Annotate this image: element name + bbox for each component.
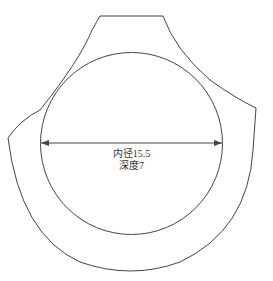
diameter-dimension-arrow bbox=[41, 140, 222, 146]
depth-label: 深度7 bbox=[0, 160, 263, 172]
inner-diameter-label: 内径15.5 bbox=[0, 148, 263, 160]
pattern-diagram bbox=[0, 0, 273, 281]
